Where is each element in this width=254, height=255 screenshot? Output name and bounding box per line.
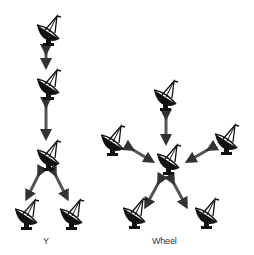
satellite-dish-icon [13,197,45,231]
satellite-dish-icon [193,196,225,230]
satellite-dish-icon [58,197,90,231]
satellite-dish-icon [213,122,245,156]
satellite-dish-icon [35,67,67,101]
satellite-dish-icon [121,196,153,230]
satellite-dish-icon [35,138,67,172]
diagram-label-wheel: Wheel [152,236,177,246]
satellite-dish-icon [35,13,67,47]
satellite-dish-icon [152,78,184,112]
satellite-dish-icon [155,142,187,176]
diagram-label-y: Y [43,236,49,246]
satellite-dish-icon [99,123,131,157]
